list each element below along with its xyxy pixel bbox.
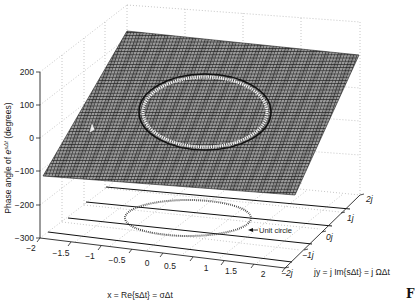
z-ticks [36, 72, 40, 238]
svg-text:0.5: 0.5 [164, 261, 176, 271]
svg-text:1j: 1j [347, 213, 355, 223]
svg-text:−2: −2 [26, 243, 36, 253]
unit-circle-annotation: Unit circle [248, 226, 292, 235]
y-axis-title: jy = j Im{sΔt} = j ΩΔt [313, 267, 390, 277]
z-tick-labels: 200 100 0 −100 −200 −300 [15, 67, 34, 243]
svg-text:−200: −200 [15, 200, 34, 210]
phase-surface-chart: Unit circle 200 100 0 −100 −200 −300 [0, 0, 415, 300]
unit-circle-label: Unit circle [259, 226, 292, 235]
svg-text:0: 0 [29, 133, 34, 143]
svg-text:200: 200 [20, 67, 34, 77]
svg-text:2j: 2j [365, 194, 374, 204]
svg-text:−100: −100 [15, 166, 34, 176]
svg-text:−1.5: −1.5 [53, 248, 70, 258]
svg-text:−1: −1 [85, 251, 95, 261]
z-axis-title: Phase angle of esΔt (degrees) [3, 102, 13, 213]
x-axis-title: x = Re{sΔt} = σΔt [107, 290, 173, 300]
x-ticks [37, 238, 285, 272]
svg-text:100: 100 [20, 100, 34, 110]
svg-text:1: 1 [204, 263, 209, 273]
svg-text:1.5: 1.5 [225, 266, 237, 276]
svg-text:−1j: −1j [302, 250, 315, 260]
figure-letter: F [406, 287, 415, 300]
svg-text:−2j: −2j [281, 268, 294, 278]
svg-text:−300: −300 [15, 233, 34, 243]
phase-surface [43, 31, 359, 195]
svg-text:0j: 0j [326, 232, 334, 242]
svg-text:0: 0 [145, 258, 150, 268]
svg-text:2: 2 [261, 269, 266, 279]
svg-text:−0.5: −0.5 [109, 255, 126, 265]
